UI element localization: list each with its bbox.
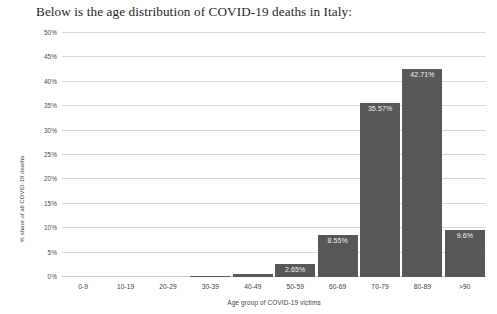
- bar-group: 20-29: [147, 33, 189, 277]
- bar-chart: % share of all COVID-19 deaths 0%5%10%15…: [0, 29, 497, 314]
- bar-group: 8.55%60-69: [316, 33, 358, 277]
- y-axis-title: % share of all COVID-19 deaths: [19, 129, 25, 269]
- x-axis-tick-label: 50-59: [274, 283, 316, 290]
- page-title: Below is the age distribution of COVID-1…: [36, 4, 352, 20]
- bar[interactable]: 9.6%: [445, 230, 485, 277]
- x-axis-tick-label: 70-79: [359, 283, 401, 290]
- x-axis-tick-label: 10-19: [104, 283, 146, 290]
- y-axis-tick-label: 15%: [44, 199, 57, 206]
- y-axis-tick-label: 25%: [44, 151, 57, 158]
- bar-group: 42.71%80-89: [401, 33, 443, 277]
- y-axis-tick-label: 10%: [44, 224, 57, 231]
- x-axis-title: Age group of COVID-19 victims: [62, 299, 486, 306]
- bar-group: 9.6%>90: [444, 33, 486, 277]
- plot-area: 0%5%10%15%20%25%30%35%40%45%50% 0-910-19…: [62, 33, 486, 277]
- bar-group: 2.65%50-59: [274, 33, 316, 277]
- x-axis-tick-label: 80-89: [401, 283, 443, 290]
- bar-value-label: 8.55%: [318, 237, 358, 244]
- bar-value-label: 9.6%: [445, 232, 485, 239]
- bar[interactable]: 42.71%: [402, 69, 442, 277]
- bar-group: 10-19: [104, 33, 146, 277]
- y-axis-tick-label: 40%: [44, 77, 57, 84]
- bar-group: 30-39: [189, 33, 231, 277]
- x-axis-tick-label: 30-39: [189, 283, 231, 290]
- bar[interactable]: 2.65%: [275, 264, 315, 277]
- bar[interactable]: [190, 276, 230, 277]
- y-axis-tick-label: 35%: [44, 102, 57, 109]
- x-axis-tick-label: 60-69: [316, 283, 358, 290]
- bar-group: 35.57%70-79: [359, 33, 401, 277]
- x-axis-tick-label: >90: [444, 283, 486, 290]
- y-axis-tick-label: 30%: [44, 126, 57, 133]
- bar-value-label: 42.71%: [402, 71, 442, 78]
- bar-value-label: 2.65%: [275, 266, 315, 273]
- x-axis-tick-label: 0-9: [62, 283, 104, 290]
- y-axis-tick-label: 50%: [44, 29, 57, 36]
- y-axis-tick-label: 5%: [48, 248, 57, 255]
- bar[interactable]: 35.57%: [360, 103, 400, 277]
- bar[interactable]: [233, 274, 273, 277]
- y-axis-tick-label: 0%: [48, 273, 57, 280]
- x-axis-tick-label: 20-29: [147, 283, 189, 290]
- y-axis-tick-label: 45%: [44, 53, 57, 60]
- y-axis-tick-label: 20%: [44, 175, 57, 182]
- x-axis-tick-label: 40-49: [232, 283, 274, 290]
- bar-series: 0-910-1920-2930-3940-492.65%50-598.55%60…: [62, 33, 486, 277]
- bar-group: 40-49: [232, 33, 274, 277]
- bar-group: 0-9: [62, 33, 104, 277]
- bar-value-label: 35.57%: [360, 105, 400, 112]
- bar[interactable]: 8.55%: [318, 235, 358, 277]
